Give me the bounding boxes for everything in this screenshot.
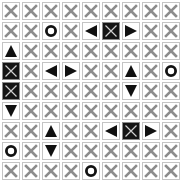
- cell-r8-c5[interactable]: [82, 142, 100, 160]
- cell-r2-c2[interactable]: [22, 22, 40, 40]
- cell-r3-c6[interactable]: [102, 42, 120, 60]
- cell-r7-c3[interactable]: [42, 122, 60, 140]
- crossed-out-cell-icon: [84, 84, 98, 98]
- cell-r2-c9[interactable]: [162, 22, 180, 40]
- crossed-out-cell-icon: [24, 164, 38, 178]
- cell-r7-c7[interactable]: [122, 122, 140, 140]
- cell-r8-c4[interactable]: [62, 142, 80, 160]
- cell-r2-c6[interactable]: [102, 22, 120, 40]
- cell-r7-c6[interactable]: [102, 122, 120, 140]
- cell-r3-c8[interactable]: [142, 42, 160, 60]
- cell-r9-c6[interactable]: [102, 162, 120, 180]
- crossed-out-cell-icon: [164, 144, 178, 158]
- cell-r2-c4[interactable]: [62, 22, 80, 40]
- cell-r6-c6[interactable]: [102, 102, 120, 120]
- cell-r9-c8[interactable]: [142, 162, 160, 180]
- cell-r1-c6[interactable]: [102, 2, 120, 20]
- cell-r1-c7[interactable]: [122, 2, 140, 20]
- cell-r2-c1[interactable]: [2, 22, 20, 40]
- triangle-up-piece-icon: [4, 44, 18, 58]
- cell-r6-c5[interactable]: [82, 102, 100, 120]
- cell-r7-c8[interactable]: [142, 122, 160, 140]
- triangle-left-piece-icon: [104, 124, 118, 138]
- cell-r1-c8[interactable]: [142, 2, 160, 20]
- crossed-out-cell-icon: [84, 124, 98, 138]
- cell-r3-c2[interactable]: [22, 42, 40, 60]
- cell-r1-c4[interactable]: [62, 2, 80, 20]
- crossed-out-cell-icon: [64, 144, 78, 158]
- crossed-out-cell-icon: [164, 104, 178, 118]
- cell-r5-c6[interactable]: [102, 82, 120, 100]
- cell-r3-c4[interactable]: [62, 42, 80, 60]
- cell-r3-c7[interactable]: [122, 42, 140, 60]
- cell-r8-c9[interactable]: [162, 142, 180, 160]
- cell-r4-c1[interactable]: [2, 62, 20, 80]
- cell-r9-c3[interactable]: [42, 162, 60, 180]
- cell-r6-c7[interactable]: [122, 102, 140, 120]
- cell-r2-c8[interactable]: [142, 22, 160, 40]
- cell-r8-c3[interactable]: [42, 142, 60, 160]
- cell-r4-c2[interactable]: [22, 62, 40, 80]
- cell-r4-c5[interactable]: [82, 62, 100, 80]
- cell-r4-c8[interactable]: [142, 62, 160, 80]
- cell-r7-c4[interactable]: [62, 122, 80, 140]
- cell-r8-c1[interactable]: [2, 142, 20, 160]
- cell-r4-c7[interactable]: [122, 62, 140, 80]
- cell-r8-c6[interactable]: [102, 142, 120, 160]
- cell-r9-c9[interactable]: [162, 162, 180, 180]
- circle-piece-icon: [164, 64, 178, 78]
- crossed-out-cell-icon: [104, 4, 118, 18]
- cell-r5-c8[interactable]: [142, 82, 160, 100]
- cell-r5-c9[interactable]: [162, 82, 180, 100]
- cell-r2-c7[interactable]: [122, 22, 140, 40]
- cell-r1-c9[interactable]: [162, 2, 180, 20]
- cell-r5-c3[interactable]: [42, 82, 60, 100]
- cell-r7-c5[interactable]: [82, 122, 100, 140]
- crossed-out-cell-icon: [164, 44, 178, 58]
- cell-r7-c1[interactable]: [2, 122, 20, 140]
- cell-r4-c9[interactable]: [162, 62, 180, 80]
- crossed-out-cell-icon: [144, 24, 158, 38]
- cell-r5-c5[interactable]: [82, 82, 100, 100]
- cell-r6-c1[interactable]: [2, 102, 20, 120]
- cell-r6-c3[interactable]: [42, 102, 60, 120]
- cell-r8-c8[interactable]: [142, 142, 160, 160]
- cell-r5-c4[interactable]: [62, 82, 80, 100]
- cell-r4-c6[interactable]: [102, 62, 120, 80]
- cell-r5-c1[interactable]: [2, 82, 20, 100]
- crossed-out-cell-icon: [104, 104, 118, 118]
- crossed-out-cell-icon: [104, 164, 118, 178]
- cell-r6-c8[interactable]: [142, 102, 160, 120]
- cell-r8-c2[interactable]: [22, 142, 40, 160]
- cell-r2-c3[interactable]: [42, 22, 60, 40]
- cell-r5-c2[interactable]: [22, 82, 40, 100]
- crossed-out-cell-icon: [44, 4, 58, 18]
- cell-r3-c3[interactable]: [42, 42, 60, 60]
- cell-r9-c7[interactable]: [122, 162, 140, 180]
- cell-r7-c9[interactable]: [162, 122, 180, 140]
- cell-r3-c5[interactable]: [82, 42, 100, 60]
- cell-r6-c2[interactable]: [22, 102, 40, 120]
- cell-r9-c4[interactable]: [62, 162, 80, 180]
- cell-r4-c3[interactable]: [42, 62, 60, 80]
- cell-r6-c4[interactable]: [62, 102, 80, 120]
- cell-r4-c4[interactable]: [62, 62, 80, 80]
- cell-r6-c9[interactable]: [162, 102, 180, 120]
- cell-r1-c3[interactable]: [42, 2, 60, 20]
- cell-r1-c2[interactable]: [22, 2, 40, 20]
- cell-r3-c1[interactable]: [2, 42, 20, 60]
- crossed-out-cell-icon: [4, 24, 18, 38]
- crossed-out-cell-icon: [84, 44, 98, 58]
- cell-r8-c7[interactable]: [122, 142, 140, 160]
- cell-r3-c9[interactable]: [162, 42, 180, 60]
- cell-r9-c5[interactable]: [82, 162, 100, 180]
- crossed-out-cell-icon: [84, 64, 98, 78]
- cell-r2-c5[interactable]: [82, 22, 100, 40]
- cell-r9-c2[interactable]: [22, 162, 40, 180]
- cell-r1-c1[interactable]: [2, 2, 20, 20]
- cell-r7-c2[interactable]: [22, 122, 40, 140]
- cell-r5-c7[interactable]: [122, 82, 140, 100]
- crossed-out-cell-icon: [4, 124, 18, 138]
- cell-r1-c5[interactable]: [82, 2, 100, 20]
- cell-r9-c1[interactable]: [2, 162, 20, 180]
